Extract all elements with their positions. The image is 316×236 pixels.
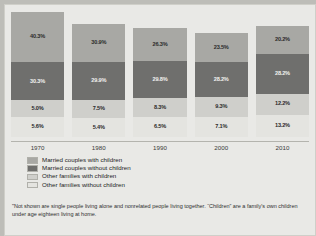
bar-segment-other-without-children: 5.4% <box>72 118 125 137</box>
bar-segment-other-with-children: 5.0% <box>11 100 64 117</box>
bar-column-1970[interactable]: 40.3% 30.3% 5.0% 5.6% <box>11 12 64 137</box>
legend-swatch-icon <box>27 165 38 172</box>
x-tick-1980: 1980 <box>72 144 125 152</box>
bar-segment-married-without-children: 29.9% <box>72 62 125 99</box>
legend-item-other-without-children: Other families without children <box>27 182 162 189</box>
legend-label: Other families without children <box>42 182 125 189</box>
legend-item-other-with-children: Other families with children <box>27 173 162 180</box>
legend-label: Other families with children <box>42 173 116 180</box>
bar-segment-other-without-children: 5.6% <box>11 117 64 137</box>
legend-item-married-with-children: Married couples with children <box>27 157 162 164</box>
legend-swatch-icon <box>27 174 38 181</box>
chart-footnote: "Not shown are single people living alon… <box>12 203 162 219</box>
bar-segment-married-with-children: 40.3% <box>11 12 64 62</box>
legend-swatch-icon <box>27 157 38 164</box>
x-tick-1990: 1990 <box>133 144 162 152</box>
bar-segment-married-with-children: 30.9% <box>72 24 125 63</box>
bar-segment-other-with-children: 7.5% <box>72 100 125 118</box>
legend-label: Married couples without children <box>42 165 131 172</box>
bar-column-1980[interactable]: 30.9% 29.9% 7.5% 5.4% <box>72 12 125 137</box>
legend-label: Married couples with children <box>42 157 122 164</box>
x-tick-1970: 1970 <box>11 144 64 152</box>
chart-legend: Married couples with children Married co… <box>27 157 162 190</box>
bar-segment-married-with-children: 26.3% <box>133 28 162 61</box>
legend-swatch-icon <box>27 182 38 189</box>
x-axis: 1970 1980 1990 2000 2010 <box>11 141 162 152</box>
figure-frame: 40.3% 30.3% 5.0% 5.6% 30.9% 29.9% 7.5% 5… <box>0 0 162 235</box>
bar-segment-other-with-children: 8.3% <box>133 98 162 117</box>
chart-card: 40.3% 30.3% 5.0% 5.6% 30.9% 29.9% 7.5% 5… <box>4 4 162 235</box>
bar-column-1990[interactable]: 26.3% 29.8% 8.3% 6.5% <box>133 12 162 137</box>
stacked-bar-plot: 40.3% 30.3% 5.0% 5.6% 30.9% 29.9% 7.5% 5… <box>11 12 162 137</box>
legend-item-married-without-children: Married couples without children <box>27 165 162 172</box>
bar-segment-other-without-children: 6.5% <box>133 117 162 137</box>
bar-segment-married-without-children: 29.8% <box>133 61 162 98</box>
bar-segment-married-without-children: 30.3% <box>11 62 64 100</box>
